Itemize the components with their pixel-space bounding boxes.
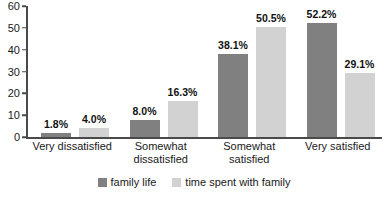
bar-group: 52.2%29.1% [294,6,383,137]
bar-rect[interactable] [168,101,198,137]
legend-label: family life [111,176,157,188]
legend-item-family-life[interactable]: family life [98,176,157,188]
y-axis-tick-label: 10 [8,110,20,121]
bar-group: 1.8%4.0% [28,6,117,137]
y-axis-tick-label: 30 [8,66,20,77]
y-axis-tick-labels: 0102030405060 [0,6,24,140]
bar-family-life[interactable]: 1.8% [41,6,71,137]
bar-rect[interactable] [130,120,160,137]
bar-group: 8.0%16.3% [117,6,206,137]
bar-value-label: 16.3% [168,87,198,98]
plot-area: 1.8%4.0%8.0%16.3%38.1%50.5%52.2%29.1% [26,6,382,140]
bar-rect[interactable] [307,23,337,137]
legend-swatch-icon [172,178,181,187]
category-label-line: Somewhat [117,140,206,153]
bar-value-label: 29.1% [345,59,375,70]
y-axis-tick-label: 60 [8,1,20,12]
bar-value-label: 52.2% [307,9,337,20]
bar-rect[interactable] [41,133,71,137]
bar-rect[interactable] [256,27,286,137]
legend-label: time spent with family [185,176,290,188]
bar-time-spent-with-family[interactable]: 29.1% [345,6,375,137]
bar-rect[interactable] [79,128,109,137]
bar-group: 38.1%50.5% [205,6,294,137]
bar-groups: 1.8%4.0%8.0%16.3%38.1%50.5%52.2%29.1% [28,6,382,137]
bar-value-label: 50.5% [256,13,286,24]
x-axis-category-labels: Very dissatisfiedSomewhatdissatisfiedSom… [28,140,382,165]
category-label-line: dissatisfied [117,153,206,166]
x-axis-category-label: Very satisfied [294,140,383,165]
bar-time-spent-with-family[interactable]: 50.5% [256,6,286,137]
category-label-line: Somewhat [205,140,294,153]
bar-family-life[interactable]: 38.1% [218,6,248,137]
bar-family-life[interactable]: 8.0% [130,6,160,137]
chart-legend: family lifetime spent with family [0,176,388,188]
y-axis-tick-label: 40 [8,44,20,55]
x-axis-category-label: Somewhatsatisfied [205,140,294,165]
bar-family-life[interactable]: 52.2% [307,6,337,137]
legend-swatch-icon [98,178,107,187]
bar-value-label: 8.0% [133,106,157,117]
category-label-line: satisfied [205,153,294,166]
y-axis-tick-label: 0 [14,132,20,143]
y-axis-tick-label: 20 [8,88,20,99]
y-axis-tick-label: 50 [8,22,20,33]
bar-time-spent-with-family[interactable]: 16.3% [168,6,198,137]
bar-value-label: 38.1% [218,40,248,51]
category-label-line: Very satisfied [294,140,383,153]
bar-value-label: 4.0% [82,114,106,125]
x-axis-category-label: Somewhatdissatisfied [117,140,206,165]
legend-item-time-spent-with-family[interactable]: time spent with family [172,176,290,188]
category-label-line: Very dissatisfied [28,140,117,153]
bar-chart: 0102030405060 1.8%4.0%8.0%16.3%38.1%50.5… [0,0,388,198]
bar-rect[interactable] [218,54,248,137]
bar-rect[interactable] [345,73,375,137]
x-axis-category-label: Very dissatisfied [28,140,117,165]
x-axis-line [26,137,382,139]
bar-value-label: 1.8% [44,119,68,130]
bar-time-spent-with-family[interactable]: 4.0% [79,6,109,137]
